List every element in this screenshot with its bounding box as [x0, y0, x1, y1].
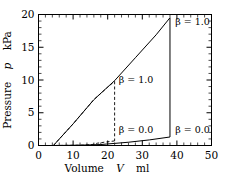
x-title-unit: ml: [136, 162, 150, 174]
annotation-beta-lower-right: β = 0.0: [175, 124, 210, 135]
annotation-beta-lower-left: β = 0.0: [119, 124, 154, 135]
x-tick-label: 30: [136, 149, 149, 161]
y-tick-label: 0: [28, 139, 35, 151]
x-tick-label: 20: [101, 149, 114, 161]
chart-canvas: 01020304050 05101520 β = 1.0β = 1.0β = 0…: [0, 0, 229, 183]
data-series-line: [53, 81, 114, 145]
x-title-symbol: V: [116, 162, 125, 174]
annotation-layer: β = 1.0β = 1.0β = 0.0β = 0.0: [119, 16, 210, 135]
x-axis-title: Volume V ml: [64, 162, 150, 174]
y-tick-label: 15: [21, 41, 34, 53]
y-axis-tick-labels: 05101520: [21, 8, 34, 151]
y-title-name: Pressure: [1, 82, 13, 129]
svg-text:Pressure p kPa: Pressure p kPa: [1, 31, 13, 129]
x-tick-label: 50: [205, 149, 218, 161]
annotation-beta-top-right: β = 1.0: [175, 16, 210, 27]
y-tick-label: 20: [21, 8, 34, 20]
x-tick-label: 10: [66, 149, 79, 161]
pressure-volume-chart: 01020304050 05101520 β = 1.0β = 1.0β = 0…: [0, 0, 229, 183]
x-axis-tick-labels: 01020304050: [35, 149, 218, 161]
y-title-symbol: p: [1, 62, 13, 69]
x-tick-label: 40: [170, 149, 183, 161]
svg-text:Volume V ml: Volume V ml: [64, 162, 150, 174]
y-title-unit: kPa: [1, 31, 13, 50]
x-tick-label: 0: [35, 149, 42, 161]
annotation-beta-middle: β = 1.0: [119, 74, 154, 85]
y-tick-label: 5: [28, 106, 35, 118]
x-title-name: Volume: [64, 162, 104, 174]
y-tick-label: 10: [21, 74, 34, 86]
y-axis-title: Pressure p kPa: [1, 31, 13, 129]
